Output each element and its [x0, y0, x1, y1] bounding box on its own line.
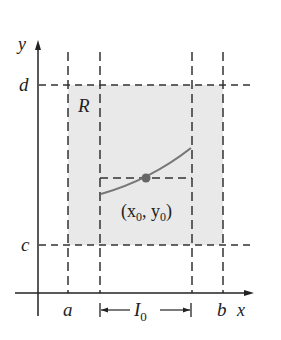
label-c: c — [21, 234, 30, 255]
y-axis-label: y — [16, 34, 26, 54]
y-axis-arrow-icon — [35, 40, 41, 50]
i0-arrowhead-right-icon — [183, 308, 190, 313]
i0-arrowhead-left-icon — [101, 308, 108, 313]
region-r — [68, 85, 223, 245]
label-a: a — [63, 299, 73, 320]
label-interval-i0: I0 — [133, 299, 147, 324]
point-x0-y0 — [142, 174, 151, 183]
diagram-canvas: y x d c a b R I0 (x0, y0) — [0, 0, 281, 340]
x-axis-label: x — [236, 300, 245, 320]
x-axis-arrow-icon — [244, 290, 254, 296]
label-region-r: R — [77, 95, 90, 116]
label-d: d — [19, 74, 29, 95]
label-b: b — [217, 299, 227, 320]
